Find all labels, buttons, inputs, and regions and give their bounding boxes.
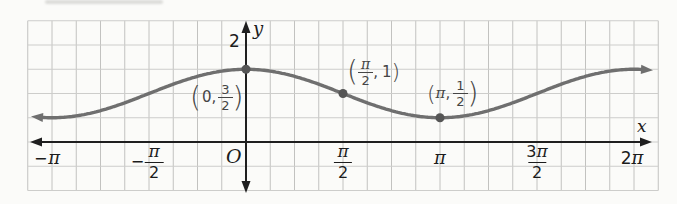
comma: , xyxy=(445,86,450,101)
x-tick-pi: π xyxy=(434,149,446,167)
minus-sign: − xyxy=(34,149,47,168)
fraction-denominator: 2 xyxy=(358,72,372,87)
fraction: π 2 xyxy=(358,57,373,87)
fraction: π 2 xyxy=(145,143,163,181)
minus-sign: − xyxy=(131,154,144,170)
fraction: π 2 xyxy=(334,143,352,181)
x-tick-neg-pi: −π xyxy=(34,149,60,167)
fraction-denominator: 2 xyxy=(528,162,546,181)
x-tick-pi-over-2: π 2 xyxy=(334,143,352,181)
open-paren: ( xyxy=(427,83,436,105)
data-point xyxy=(338,89,347,98)
origin-label: O xyxy=(226,147,242,166)
x-axis-label: x xyxy=(637,118,647,135)
pi-symbol: π xyxy=(631,147,643,168)
pi-symbol: π xyxy=(149,143,160,160)
fraction-numerator: 1 xyxy=(456,79,464,92)
fraction: 3 2 xyxy=(218,83,232,112)
digit-2: 2 xyxy=(621,148,632,168)
fraction-denominator: 2 xyxy=(334,162,352,181)
fraction-denominator: 2 xyxy=(145,162,163,181)
point-label-0-3-2: ( 0, 3 2 ) xyxy=(190,83,243,112)
point-label-pi-2-1: ( π 2 , 1 ) xyxy=(347,57,400,87)
close-paren: ) xyxy=(468,80,479,108)
fraction-denominator: 2 xyxy=(218,97,232,112)
x-tick-neg-pi-over-2: − π 2 xyxy=(131,143,164,181)
fraction: 1 2 xyxy=(453,79,467,108)
fraction-denominator: 2 xyxy=(453,93,467,108)
coordinate-text: 1 xyxy=(382,65,392,80)
point-label-pi-1-2: ( π , 1 2 ) xyxy=(427,79,478,108)
trig-graph-figure: y x O 2 −π − π 2 π 2 π 3π 2 2π ( 0, 3 2 … xyxy=(0,0,677,204)
data-point xyxy=(242,65,251,74)
x-tick-3pi-over-2: 3π 2 xyxy=(523,143,550,181)
pi-symbol: π xyxy=(337,143,348,160)
open-paren: ( xyxy=(347,58,358,86)
coordinate-text: 0, xyxy=(202,90,216,105)
y-tick-label-2: 2 xyxy=(229,33,240,50)
data-point xyxy=(435,113,444,122)
y-axis-label: y xyxy=(253,20,263,38)
pi-symbol: π xyxy=(48,147,60,168)
x-tick-2pi: 2π xyxy=(621,149,644,167)
open-paren: ( xyxy=(190,84,201,112)
comma: , xyxy=(373,65,378,80)
pi-symbol: π xyxy=(537,143,548,160)
digit-3: 3 xyxy=(526,144,536,160)
fraction-numerator: 3 xyxy=(221,83,229,96)
pi-symbol: π xyxy=(436,86,446,101)
close-paren: ) xyxy=(233,84,244,112)
pi-symbol: π xyxy=(361,57,370,71)
fraction: 3π 2 xyxy=(523,143,550,181)
close-paren: ) xyxy=(391,61,400,83)
